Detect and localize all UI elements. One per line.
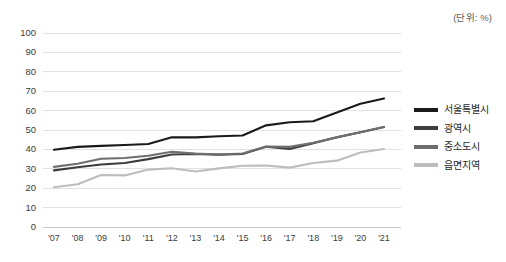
x-axis-tick-label: '07 [42,233,66,243]
legend-color-swatch [414,108,438,112]
y-axis-tick-label: 90 [8,47,36,57]
x-axis-tick-label: '21 [372,233,396,243]
x-axis-tick-label: '19 [325,233,349,243]
x-axis-tick-label: '20 [348,233,372,243]
x-axis-tick-label: '14 [207,233,231,243]
legend-item[interactable]: 읍면지역 [414,160,489,171]
x-axis-tick-label: '15 [231,233,255,243]
legend-item[interactable]: 중소도시 [414,141,489,152]
legend-color-swatch [414,126,438,130]
chart-legend: 서울특별시광역시중소도시읍면지역 [414,104,489,171]
gridlines [43,33,401,227]
y-axis-tick-label: 10 [8,203,36,213]
legend-item-label: 서울특별시 [444,104,489,115]
x-axis-tick-label: '18 [301,233,325,243]
series-lines [54,99,384,188]
x-axis-tick-label: '10 [113,233,137,243]
y-axis-tick-label: 40 [8,144,36,154]
legend-item-label: 광역시 [444,123,471,134]
legend-item-label: 중소도시 [444,141,480,152]
legend-item-label: 읍면지역 [444,160,480,171]
x-axis-tick-label: '09 [89,233,113,243]
y-axis-tick-label: 50 [8,125,36,135]
x-axis-tick-label: '11 [136,233,160,243]
y-axis-tick-label: 20 [8,183,36,193]
x-axis-tick-label: '08 [66,233,90,243]
line-chart: (단위: %) 0102030405060708090100 '07'08'09… [0,0,506,262]
x-axis-tick-label: '17 [278,233,302,243]
series-line [54,127,384,170]
y-axis-tick-label: 60 [8,106,36,116]
y-axis-tick-label: 0 [8,222,36,232]
x-axis-tick-label: '13 [183,233,207,243]
series-line [54,99,384,150]
y-axis-tick-label: 70 [8,86,36,96]
y-axis-tick-label: 100 [8,28,36,38]
y-axis-tick-label: 30 [8,164,36,174]
legend-item[interactable]: 광역시 [414,123,489,134]
x-axis-tick-label: '12 [160,233,184,243]
legend-color-swatch [414,163,438,167]
legend-item[interactable]: 서울특별시 [414,104,489,115]
x-axis-tick-label: '16 [254,233,278,243]
y-axis-tick-label: 80 [8,67,36,77]
legend-color-swatch [414,145,438,149]
